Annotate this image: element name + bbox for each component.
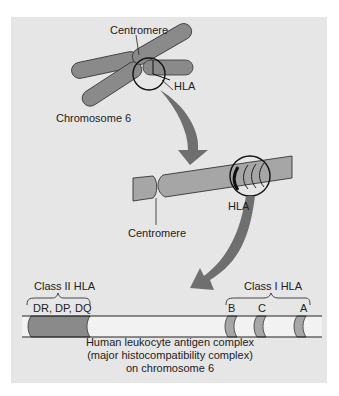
gene-b-label: B xyxy=(228,302,235,314)
arrow-1-icon xyxy=(160,90,208,165)
hla-label-top: HLA xyxy=(174,80,195,92)
class2-hla-label: Class II HLA xyxy=(34,280,95,292)
class1-hla-label: Class I HLA xyxy=(244,280,302,292)
caption-line-3: on chromosome 6 xyxy=(60,362,280,375)
complex-caption: Human leukocyte antigen complex (major h… xyxy=(60,336,280,375)
gene-a-label: A xyxy=(300,302,307,314)
hla-complex-band-icon xyxy=(22,316,322,337)
hla-label-arm: HLA xyxy=(228,200,249,212)
centromere-label-arm: Centromere xyxy=(128,227,186,239)
centromere-label-top: Centromere xyxy=(110,24,168,36)
class2-genes-label: DR, DP, DQ xyxy=(33,302,91,314)
caption-line-2: (major histocompatibility complex) xyxy=(60,349,280,362)
chromosome-arm-icon xyxy=(133,156,292,225)
chromosome-6-label: Chromosome 6 xyxy=(56,112,131,124)
class1-brace-icon xyxy=(226,293,310,305)
gene-c-label: C xyxy=(258,302,266,314)
caption-line-1: Human leukocyte antigen complex xyxy=(60,336,280,349)
